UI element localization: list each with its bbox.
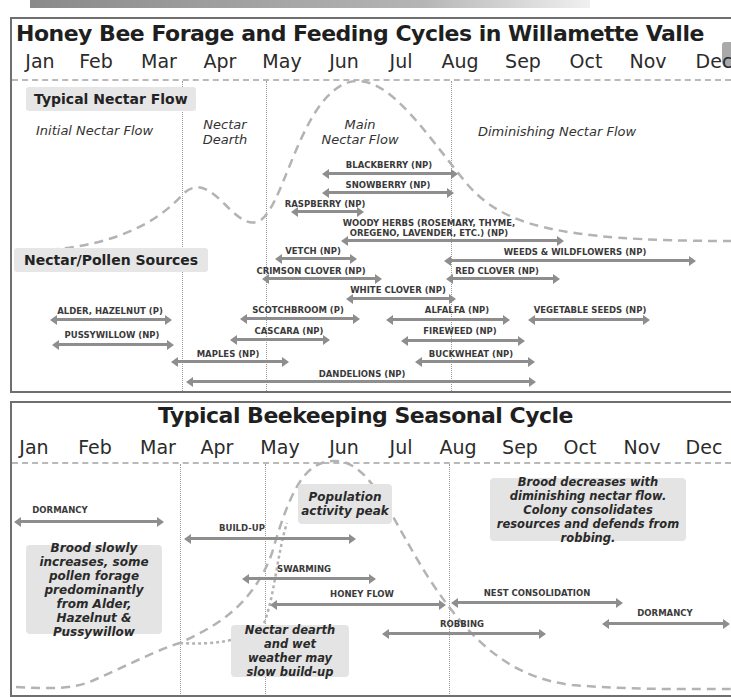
note-brood-decrease: Brood decreases with diminishing nectar … xyxy=(490,478,686,541)
activity-range-arrow xyxy=(276,603,440,606)
nectar-pollen-sources-label: Nectar/Pollen Sources xyxy=(14,248,208,272)
top-gradient-bar xyxy=(30,0,590,8)
activity-label: NEST CONSOLIDATION xyxy=(484,588,591,598)
month-label: Jul xyxy=(390,50,413,72)
source-range-arrow xyxy=(347,239,558,242)
month-label: Aug xyxy=(441,50,478,72)
source-label: RED CLOVER (NP) xyxy=(455,266,539,276)
source-label: VETCH (NP) xyxy=(285,246,341,256)
phase-initial-nectar-flow: Initial Nectar Flow xyxy=(36,123,153,138)
activity-label: BUILD-UP xyxy=(219,523,265,533)
source-range-arrow xyxy=(328,191,448,194)
activity-range-arrow xyxy=(388,632,540,635)
source-range-arrow xyxy=(450,259,690,262)
month-label: Apr xyxy=(204,50,237,72)
source-range-arrow xyxy=(352,297,450,300)
beekeeping-chart-title: Typical Beekeeping Seasonal Cycle xyxy=(158,403,573,428)
month-label: May xyxy=(260,436,299,458)
source-range-arrow xyxy=(177,360,283,363)
source-label: CASCARA (NP) xyxy=(255,326,324,336)
source-label: VEGETABLE SEEDS (NP) xyxy=(534,305,647,315)
source-label: MAPLES (NP) xyxy=(197,349,260,359)
month-label: Apr xyxy=(201,436,234,458)
source-range-arrow xyxy=(268,277,376,280)
axis-divider xyxy=(12,79,731,81)
forage-chart-panel: Honey Bee Forage and Feeding Cycles in W… xyxy=(10,17,731,393)
month-label: Dec xyxy=(686,436,723,458)
source-range-arrow xyxy=(281,257,351,260)
source-label: BUCKWHEAT (NP) xyxy=(429,349,513,359)
source-range-arrow xyxy=(192,380,530,383)
phase-line: Dearth xyxy=(200,132,250,147)
month-label: Jan xyxy=(19,436,48,458)
beekeeping-cycle-panel: Typical Beekeeping Seasonal Cycle Jan Fe… xyxy=(10,401,731,697)
month-label: Jan xyxy=(25,50,54,72)
month-label: Jul xyxy=(390,436,413,458)
source-range-arrow xyxy=(328,172,452,175)
source-range-arrow xyxy=(452,277,554,280)
source-label: SCOTCHBROOM (P) xyxy=(252,305,344,315)
activity-label: SWARMING xyxy=(277,564,331,574)
note-text: Population activity peak xyxy=(298,490,392,518)
note-text: Nectar dearth and wet weather may slow b… xyxy=(237,623,343,679)
month-label: Jun xyxy=(329,50,359,72)
activity-label: DORMANCY xyxy=(32,505,87,515)
phase-divider xyxy=(449,464,450,694)
note-text: Brood decreases with diminishing nectar … xyxy=(490,475,686,545)
source-range-arrow xyxy=(236,338,324,341)
month-label: Nov xyxy=(623,436,660,458)
activity-label: ROBBING xyxy=(440,619,484,629)
source-label: WHITE CLOVER (NP) xyxy=(350,285,446,295)
source-range-arrow xyxy=(534,318,644,321)
phase-line: Main xyxy=(315,117,405,132)
source-label: ALFALFA (NP) xyxy=(425,305,489,315)
phase-diminishing-nectar-flow: Diminishing Nectar Flow xyxy=(478,124,636,139)
axis-divider xyxy=(12,462,731,464)
month-label: Oct xyxy=(564,436,597,458)
source-range-arrow xyxy=(407,339,519,342)
month-label: Oct xyxy=(570,50,603,72)
month-label: Aug xyxy=(439,436,476,458)
phase-nectar-dearth: Nectar Dearth xyxy=(200,117,250,147)
source-label: WOODY HERBS (ROSEMARY, THYME, OREGENO, L… xyxy=(343,218,516,238)
phase-divider xyxy=(182,81,183,391)
activity-range-arrow xyxy=(20,520,158,523)
forage-chart-title: Honey Bee Forage and Feeding Cycles in W… xyxy=(16,21,704,46)
month-label: Sep xyxy=(505,50,541,72)
note-text: Brood slowly increases, some pollen fora… xyxy=(30,541,158,639)
month-label: Jun xyxy=(329,436,359,458)
source-range-arrow xyxy=(246,317,354,320)
month-label: Nov xyxy=(629,50,666,72)
source-range-arrow xyxy=(56,318,166,321)
phase-main-nectar-flow: Main Nectar Flow xyxy=(315,117,405,147)
source-label: WEEDS & WILDFLOWERS (NP) xyxy=(504,247,647,257)
activity-label: HONEY FLOW xyxy=(330,589,394,599)
typical-nectar-flow-label: Typical Nectar Flow xyxy=(26,87,196,111)
activity-label: DORMANCY xyxy=(637,608,692,618)
source-label-line: WOODY HERBS (ROSEMARY, THYME, xyxy=(343,218,516,228)
month-label: Mar xyxy=(141,50,177,72)
source-label: CRIMSON CLOVER (NP) xyxy=(256,266,365,276)
phase-line: Nectar Flow xyxy=(315,132,405,147)
source-range-arrow xyxy=(421,360,529,363)
source-label: BLACKBERRY (NP) xyxy=(346,160,432,170)
month-label: Feb xyxy=(78,436,112,458)
source-label: ALDER, HAZELNUT (P) xyxy=(57,306,163,316)
source-label: DANDELIONS (NP) xyxy=(319,369,406,379)
activity-range-arrow xyxy=(248,577,370,580)
month-label: Feb xyxy=(79,50,113,72)
source-label: FIREWEED (NP) xyxy=(423,326,496,336)
source-range-arrow xyxy=(297,210,358,213)
phase-line: Nectar xyxy=(200,117,250,132)
note-brood-increase: Brood slowly increases, some pollen fora… xyxy=(26,545,162,634)
month-label: May xyxy=(262,50,301,72)
note-population-peak: Population activity peak xyxy=(298,484,392,524)
month-label: Mar xyxy=(140,436,176,458)
source-label: SNOWBERRY (NP) xyxy=(346,180,431,190)
activity-range-arrow xyxy=(190,537,350,540)
month-label: Sep xyxy=(502,436,538,458)
source-range-arrow xyxy=(58,343,168,346)
activity-range-arrow xyxy=(457,601,617,604)
month-label: Dec xyxy=(696,50,731,72)
source-label-line: OREGENO, LAVENDER, ETC.) (NP) xyxy=(343,228,516,238)
